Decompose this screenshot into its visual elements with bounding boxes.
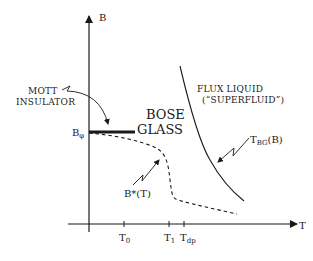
tick-label-tdp: Tdp: [180, 232, 196, 245]
b-star-pointer-arrow: [133, 160, 159, 185]
svg-text:MOTT: MOTT: [28, 86, 58, 96]
tick-label-t0: T0: [119, 232, 130, 245]
b-star-curve: [89, 133, 237, 214]
flux-liquid-label: FLUX LIQUID (“SUPERFLUID”): [197, 84, 284, 105]
svg-text:FLUX LIQUID: FLUX LIQUID: [197, 84, 263, 94]
t-bg-label: TBG(B): [250, 134, 283, 147]
tick-label-t1: T1: [164, 232, 175, 245]
svg-text:(“SUPERFLUID”): (“SUPERFLUID”): [202, 95, 284, 105]
b-phi-label: Bφ: [72, 127, 84, 140]
phase-diagram: B T T0 T1 Tdp Bφ MOTT INSULATOR BOS: [0, 0, 313, 261]
b-star-label: B*(T): [124, 188, 151, 199]
mott-insulator-label: MOTT INSULATOR: [16, 86, 75, 107]
svg-text:INSULATOR: INSULATOR: [16, 97, 75, 107]
svg-text:BOSE: BOSE: [146, 107, 185, 122]
svg-text:GLASS: GLASS: [137, 122, 183, 137]
y-axis: B: [89, 12, 106, 232]
y-axis-label: B: [99, 12, 106, 23]
x-axis-label: T: [299, 220, 306, 231]
bose-glass-label: BOSE GLASS: [137, 107, 185, 137]
x-axis: T: [68, 220, 306, 231]
t-bg-pointer-arrow: [218, 138, 249, 162]
